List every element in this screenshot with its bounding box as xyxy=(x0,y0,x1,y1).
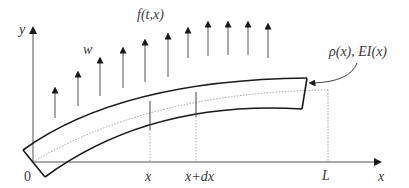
length-label: L xyxy=(322,169,330,183)
section-end-label: x+dx xyxy=(185,170,214,184)
y-axis-label: y xyxy=(19,23,25,37)
beam-top-edge xyxy=(23,78,307,150)
beam-right-end xyxy=(302,78,307,109)
properties-label: ρ(x), EI(x) xyxy=(329,45,387,59)
beam-bottom-edge xyxy=(45,108,302,177)
load-arrows xyxy=(55,24,268,118)
load-label: f(t,x) xyxy=(137,8,164,22)
origin-label: 0 xyxy=(24,170,31,184)
x-axis-label: x xyxy=(378,170,384,184)
section-lines xyxy=(150,92,196,162)
neutral-axis xyxy=(33,90,328,162)
properties-leader xyxy=(312,63,357,83)
deflection-label: w xyxy=(83,43,92,57)
section-start-label: x xyxy=(145,170,151,184)
